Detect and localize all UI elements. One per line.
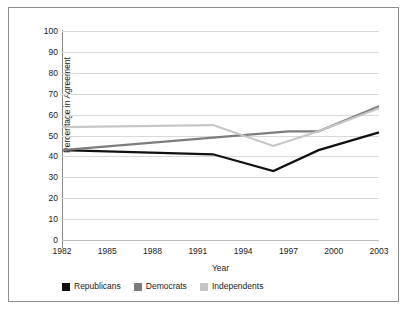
- y-axis-tick-labels: 0102030405060708090100: [17, 31, 58, 240]
- series-line: [62, 108, 379, 146]
- x-axis-tick-label: 1991: [178, 246, 218, 256]
- x-axis-tick-labels: 19821985198819911994199720002003: [62, 246, 379, 260]
- legend-swatch-icon: [62, 283, 70, 291]
- legend-label: Republicans: [74, 282, 121, 291]
- chart-legend: RepublicansDemocratsIndependents: [62, 282, 263, 291]
- chart-figure: Percentage in Agreement 0102030405060708…: [8, 7, 399, 302]
- x-axis-tick-label: 1982: [42, 246, 82, 256]
- y-axis-tick-label: 0: [24, 236, 58, 245]
- y-axis-tick-label: 10: [24, 215, 58, 224]
- x-axis-title: Year: [62, 263, 379, 273]
- x-axis-tick-label: 2000: [314, 246, 354, 256]
- y-axis-tick-label: 60: [24, 111, 58, 120]
- y-axis-tick-label: 20: [24, 194, 58, 203]
- x-axis-tick-label: 1988: [133, 246, 173, 256]
- series-container: [62, 31, 379, 240]
- legend-entry: Independents: [200, 282, 264, 291]
- legend-entry: Democrats: [134, 282, 187, 291]
- y-axis-tick-label: 70: [24, 90, 58, 99]
- y-axis-tick-label: 30: [24, 173, 58, 182]
- legend-swatch-icon: [200, 283, 208, 291]
- plot-area: [62, 31, 379, 240]
- legend-swatch-icon: [134, 283, 142, 291]
- y-axis-tick-label: 50: [24, 132, 58, 141]
- legend-label: Democrats: [146, 282, 187, 291]
- x-axis-tick-label: 1994: [223, 246, 263, 256]
- series-line: [62, 132, 379, 171]
- legend-label: Independents: [212, 282, 264, 291]
- y-axis-tick-label: 80: [24, 69, 58, 78]
- x-axis-tick-label: 1997: [268, 246, 308, 256]
- gridline: [62, 240, 379, 241]
- y-axis-tick-label: 90: [24, 48, 58, 57]
- y-axis-tick-label: 40: [24, 152, 58, 161]
- x-axis-tick-label: 2003: [359, 246, 399, 256]
- x-axis-tick-label: 1985: [87, 246, 127, 256]
- y-axis-tick-label: 100: [24, 27, 58, 36]
- legend-entry: Republicans: [62, 282, 121, 291]
